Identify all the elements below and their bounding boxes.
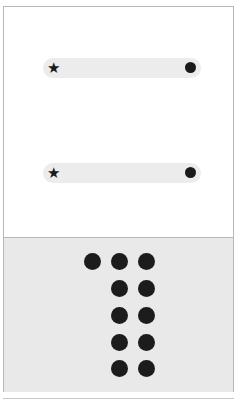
peg[interactable] bbox=[138, 307, 155, 324]
peg[interactable] bbox=[138, 360, 155, 377]
slider-handle-2[interactable] bbox=[185, 167, 196, 178]
puzzle-frame: ★ ★ bbox=[3, 6, 234, 392]
peg[interactable] bbox=[111, 360, 128, 377]
peg[interactable] bbox=[138, 280, 155, 297]
star-icon: ★ bbox=[47, 164, 60, 182]
slider-track-1[interactable]: ★ bbox=[43, 58, 201, 78]
slider-panel: ★ ★ bbox=[4, 7, 233, 237]
peg[interactable] bbox=[138, 253, 155, 270]
star-icon: ★ bbox=[47, 59, 60, 77]
divider bbox=[3, 398, 234, 399]
peg[interactable] bbox=[111, 334, 128, 351]
slider-handle-1[interactable] bbox=[185, 62, 196, 73]
peg[interactable] bbox=[111, 307, 128, 324]
slider-track-2[interactable]: ★ bbox=[43, 163, 201, 183]
peg[interactable] bbox=[111, 253, 128, 270]
peg-grid-panel bbox=[4, 237, 233, 392]
peg[interactable] bbox=[138, 334, 155, 351]
peg[interactable] bbox=[84, 253, 101, 270]
peg[interactable] bbox=[111, 280, 128, 297]
